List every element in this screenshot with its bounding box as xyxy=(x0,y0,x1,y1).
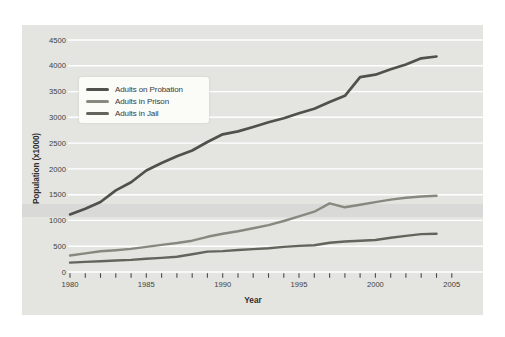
y-tick-label-2000: 2000 xyxy=(49,165,66,174)
y-tick-label-4000: 4000 xyxy=(49,61,66,70)
legend-item-prison: Adults in Prison xyxy=(79,95,209,107)
x-tick-label-1985: 1985 xyxy=(138,280,155,289)
legend-label-probation: Adults on Probation xyxy=(115,85,183,94)
y-tick-label-3500: 3500 xyxy=(49,87,66,96)
x-tick-label-1980: 1980 xyxy=(62,280,79,289)
series-line-adults-in-jail xyxy=(70,234,437,263)
y-tick-label-3000: 3000 xyxy=(49,113,66,122)
jail-line-swatch xyxy=(86,112,109,115)
y-tick-label-0: 0 xyxy=(62,268,66,277)
y-tick-label-4500: 4500 xyxy=(49,36,66,45)
legend-label-prison: Adults in Prison xyxy=(115,97,169,106)
chart-canvas: 0500100015002000250030003500400045001980… xyxy=(0,0,505,337)
legend-item-probation: Adults on Probation xyxy=(79,83,209,95)
x-axis-title: Year xyxy=(203,296,303,305)
y-tick-label-1000: 1000 xyxy=(49,216,66,225)
chart-legend: Adults on Probation Adults in Prison Adu… xyxy=(79,77,209,123)
probation-line-swatch xyxy=(86,88,109,91)
y-tick-label-500: 500 xyxy=(53,242,66,251)
y-tick-label-2500: 2500 xyxy=(49,139,66,148)
x-tick-label-2000: 2000 xyxy=(367,280,384,289)
x-tick-label-1990: 1990 xyxy=(214,280,231,289)
y-tick-label-1500: 1500 xyxy=(49,190,66,199)
x-tick-label-2005: 2005 xyxy=(443,280,460,289)
prison-line-swatch xyxy=(86,100,109,103)
correctional-population-chart: 0500100015002000250030003500400045001980… xyxy=(0,0,505,337)
legend-item-jail: Adults in Jail xyxy=(79,107,209,119)
y-axis-title: Population (x1000) xyxy=(32,108,43,230)
legend-label-jail: Adults in Jail xyxy=(115,109,159,118)
x-tick-label-1995: 1995 xyxy=(291,280,308,289)
